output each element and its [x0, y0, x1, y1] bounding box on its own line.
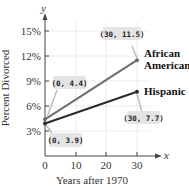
series-label-african-american-line1: African: [144, 47, 180, 59]
x-tick-label: 30: [132, 159, 144, 171]
point-label-aa-start: (0, 4.4): [51, 76, 87, 89]
series-label-hispanic: Hispanic: [144, 85, 186, 97]
x-axis-title: Years after 1970: [56, 174, 129, 186]
svg-text:(0, 4.4): (0, 4.4): [51, 79, 87, 88]
point-label-hisp-end: (30, 7.7): [123, 111, 164, 124]
svg-text:(0, 3.9): (0, 3.9): [47, 136, 83, 145]
y-axis-letter: y: [40, 2, 46, 14]
svg-text:(30, 7.7): (30, 7.7): [123, 114, 164, 123]
point-label-aa-end: (30, 11.5): [99, 27, 144, 40]
y-tick-label: 6%: [26, 100, 41, 112]
y-tick-label: 9%: [26, 75, 41, 87]
svg-text:(30, 11.5): (30, 11.5): [99, 30, 144, 39]
y-axis-arrow-icon: [43, 13, 48, 20]
x-tick-labels: 0 10 20 30: [42, 159, 143, 171]
line-chart: y x 15% 12% 9% 6% 3% 0 10 20 30 Years af…: [0, 0, 189, 188]
y-tick-label: 15%: [21, 25, 41, 37]
x-axis-arrow-icon: [155, 154, 162, 159]
series-line-african-american: [45, 60, 137, 119]
x-tick-label: 10: [71, 159, 83, 171]
series-label-african-american-line2: American: [144, 59, 189, 71]
x-tick-label: 0: [42, 159, 48, 171]
data-point: [135, 90, 139, 94]
y-tick-label: 12%: [21, 50, 41, 62]
data-point: [135, 58, 139, 62]
y-axis-title: Percent Divorced: [0, 49, 11, 126]
x-tick-label: 20: [101, 159, 113, 171]
y-tick-labels: 15% 12% 9% 6% 3%: [21, 25, 41, 137]
x-axis-letter: x: [163, 149, 169, 161]
y-tick-label: 3%: [26, 125, 41, 137]
point-label-hisp-start: (0, 3.9): [47, 133, 83, 147]
data-point: [43, 117, 47, 121]
